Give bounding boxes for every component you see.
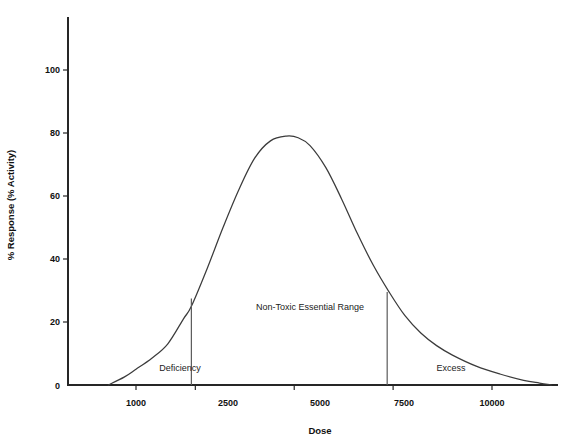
y-axis-title: % Response (% Activity) xyxy=(5,150,16,261)
annotation-deficiency: Deficiency xyxy=(159,363,201,373)
y-tick-label-0: 0 xyxy=(55,381,60,391)
response-curve xyxy=(108,136,551,385)
x-tick-label-5000: 5000 xyxy=(310,398,330,408)
x-tick-label-7500: 7500 xyxy=(394,398,414,408)
y-tick-label-100: 100 xyxy=(45,65,60,75)
y-tick-label-60: 60 xyxy=(50,191,60,201)
y-tick-label-20: 20 xyxy=(50,317,60,327)
x-tick-label-2500: 2500 xyxy=(218,398,238,408)
chart-canvas: 100 80 60 40 20 0 1000 2500 5000 7500 10… xyxy=(0,0,565,445)
axes-group xyxy=(68,18,557,385)
dose-response-chart: 100 80 60 40 20 0 1000 2500 5000 7500 10… xyxy=(0,0,565,445)
y-tick-label-80: 80 xyxy=(50,128,60,138)
x-tick-label-10000: 10000 xyxy=(479,398,504,408)
annotation-non-toxic-essential-range: Non-Toxic Essential Range xyxy=(256,302,364,312)
x-tick-label-1000: 1000 xyxy=(126,398,146,408)
x-axis-title: Dose xyxy=(308,425,331,436)
annotation-excess: Excess xyxy=(436,363,466,373)
y-tick-label-40: 40 xyxy=(50,254,60,264)
